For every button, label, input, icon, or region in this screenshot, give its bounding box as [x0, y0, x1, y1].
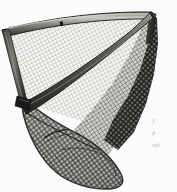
photo-scene: J d wit: [0, 0, 177, 192]
fishing-net-photo: [0, 0, 177, 192]
caption-line-1: J: [152, 118, 177, 125]
caption-line-3: wit: [152, 142, 177, 149]
caption-line-2: d: [152, 130, 177, 137]
